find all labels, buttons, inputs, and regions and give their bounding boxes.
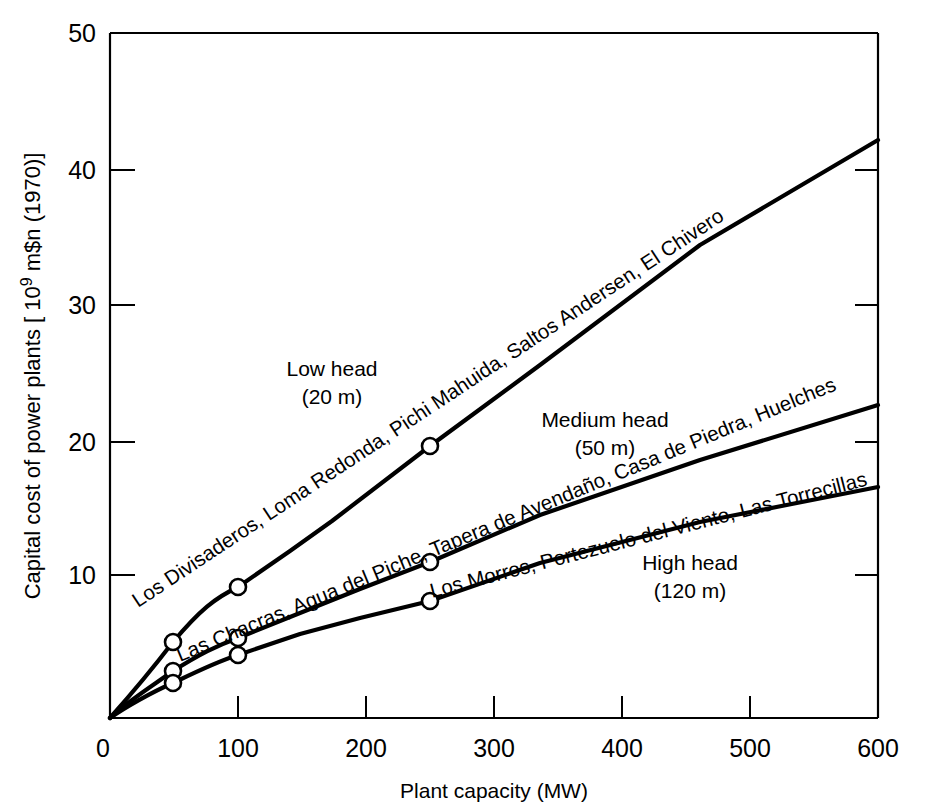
medium-head-label-line2: (50 m) [575,436,636,459]
data-point-marker [230,647,246,663]
y-ticklabel-30: 30 [68,291,96,319]
x-ticklabel-200: 200 [345,734,387,762]
y-axis-title-exponent: 9 [18,277,35,286]
data-point-marker [422,438,438,454]
high-head-label-line1: High head [642,551,738,574]
y-ticklabel-0: 0 [96,734,110,762]
chart-svg: 50 40 30 20 10 0 100 200 300 400 500 600… [0,0,930,808]
medium-head-label-line1: Medium head [541,408,668,431]
svg-text:Capital cost of power plants [: Capital cost of power plants [ 109 m$n (… [18,153,45,600]
low-head-label-line2: (20 m) [302,385,363,408]
low-head-label-line1: Low head [286,357,377,380]
y-axis-title: Capital cost of power plants [ 109 m$n (… [18,153,45,600]
high-head-label-line2: (120 m) [654,579,726,602]
y-ticklabel-20: 20 [68,428,96,456]
x-ticklabel-300: 300 [473,734,515,762]
chart-figure: 50 40 30 20 10 0 100 200 300 400 500 600… [0,0,930,808]
y-ticklabel-10: 10 [68,561,96,589]
y-ticklabel-40: 40 [68,156,96,184]
data-point-marker [230,579,246,595]
y-axis-title-tail: m$n (1970)] [20,153,45,278]
y-axis-title-main: Capital cost of power plants [ 10 [20,286,45,599]
x-axis-title: Plant capacity (MW) [400,779,588,802]
y-ticklabel-50: 50 [68,19,96,47]
x-ticklabel-500: 500 [729,734,771,762]
x-ticklabel-600: 600 [857,734,899,762]
x-ticklabel-100: 100 [217,734,259,762]
data-point-marker [165,675,181,691]
x-ticklabel-400: 400 [601,734,643,762]
